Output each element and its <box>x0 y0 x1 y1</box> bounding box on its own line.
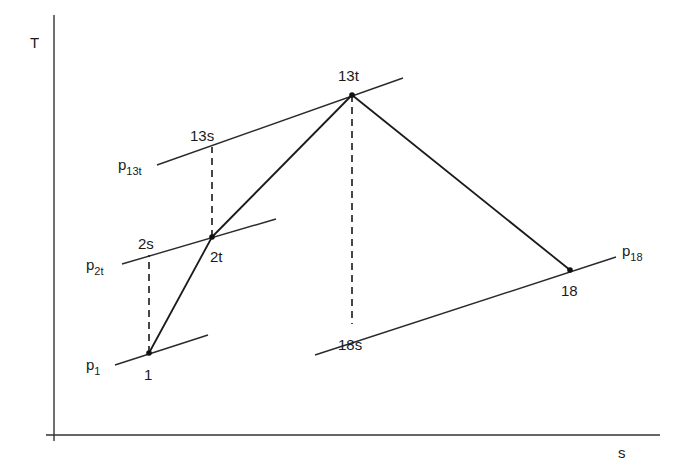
t-s-diagram: T s p1p2tp13tp1812s2t13s13t1818s <box>0 0 692 472</box>
process-line-13t-18 <box>352 95 570 270</box>
point-label-1: 1 <box>144 366 152 383</box>
point-label-2s: 2s <box>138 235 154 252</box>
isobar-subscript: 18 <box>630 251 642 263</box>
point-label-13s: 13s <box>190 127 214 144</box>
isobar-lines <box>115 78 616 365</box>
state-point-18 <box>567 267 573 273</box>
labels: p1p2tp13tp1812s2t13s13t1818s <box>86 67 643 383</box>
point-label-13t: 13t <box>338 67 360 84</box>
isobar-label-p1: p1 <box>86 356 100 377</box>
isobar-p1 <box>115 335 208 365</box>
x-axis-label: s <box>618 444 626 461</box>
isobar-label-p2t: p2t <box>86 256 104 277</box>
isobar-label-p13t: p13t <box>118 156 142 177</box>
isobar-subscript: 13t <box>126 165 141 177</box>
process-line-1-2t <box>149 237 212 353</box>
isobar-p13t <box>157 78 403 165</box>
state-point-1 <box>146 350 152 356</box>
isobar-label-p18: p18 <box>622 242 643 263</box>
process-line-2t-13t <box>212 95 352 237</box>
point-label-18: 18 <box>561 282 578 299</box>
isobar-subscript: 2t <box>94 265 103 277</box>
isobar-subscript: 1 <box>94 365 100 377</box>
isentropic-dashed-lines <box>149 95 352 353</box>
y-axis-label: T <box>30 34 39 51</box>
point-label-18s: 18s <box>338 336 362 353</box>
state-point-13t <box>349 92 355 98</box>
state-point-2t <box>209 234 215 240</box>
point-label-2t: 2t <box>210 248 223 265</box>
